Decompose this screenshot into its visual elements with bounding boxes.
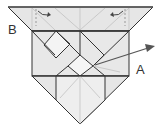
- top-band: [8, 7, 153, 31]
- arrow-a-head-icon: [145, 44, 155, 52]
- bottom-flap: [56, 76, 105, 124]
- label-a: A: [136, 63, 145, 76]
- label-b: B: [8, 23, 17, 36]
